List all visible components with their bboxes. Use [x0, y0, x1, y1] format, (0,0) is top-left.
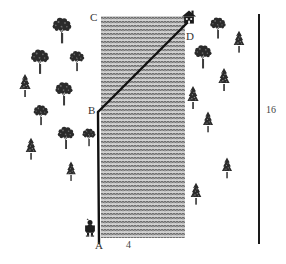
tree-conifer: [191, 183, 202, 205]
tree-deciduous: [34, 105, 49, 125]
tree-conifer: [19, 74, 30, 97]
measure-label-river-width: 4: [126, 240, 131, 250]
vertex-label-a: A: [95, 240, 103, 251]
tree-deciduous: [82, 128, 95, 146]
river-crossing-diagram: C B A D 4 16: [0, 0, 286, 264]
vertex-label-d: D: [186, 31, 194, 42]
river-band: [101, 16, 185, 238]
diagram-canvas: [0, 0, 286, 264]
tree-deciduous: [58, 127, 74, 149]
path-segment-a-b: [98, 112, 99, 243]
tree-conifer: [66, 161, 76, 181]
person-figure: [85, 218, 95, 236]
tree-deciduous: [70, 51, 85, 71]
tree-deciduous: [194, 45, 211, 68]
tree-group-left-bank: [19, 18, 95, 181]
tree-deciduous: [31, 49, 49, 73]
vertex-label-b: B: [88, 105, 95, 116]
measure-label-scale-length: 16: [266, 105, 276, 115]
tree-conifer: [187, 86, 198, 109]
tree-deciduous: [210, 17, 225, 38]
tree-deciduous: [53, 18, 72, 44]
tree-conifer: [222, 158, 232, 179]
tree-group-right-bank: [187, 17, 244, 204]
tree-conifer: [218, 68, 229, 91]
vertex-label-c: C: [90, 12, 97, 23]
tree-conifer: [234, 31, 245, 53]
tree-conifer: [203, 112, 213, 133]
tree-deciduous: [55, 82, 72, 105]
tree-conifer: [26, 138, 37, 160]
